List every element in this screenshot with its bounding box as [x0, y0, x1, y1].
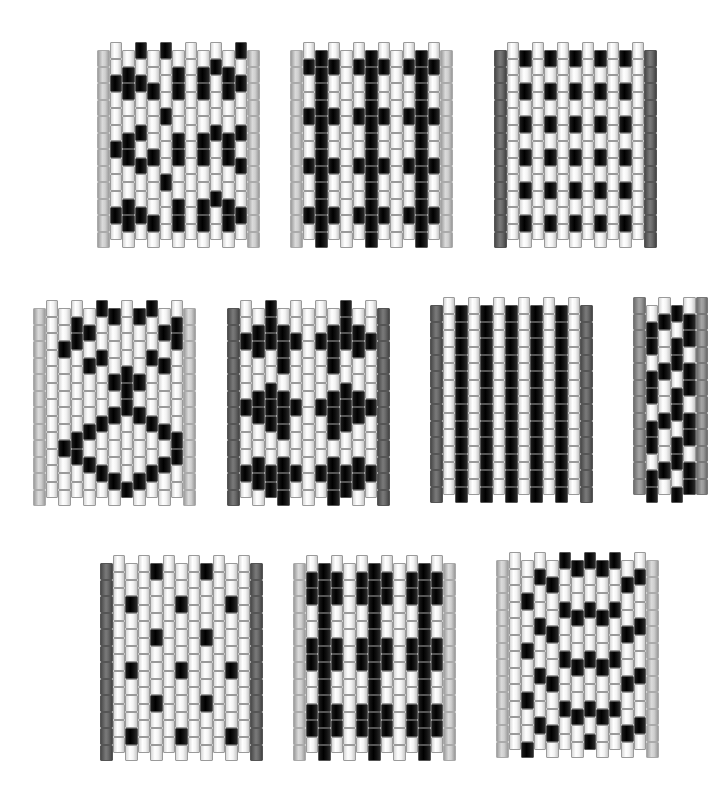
white-bead [532, 42, 545, 59]
white-bead [582, 224, 595, 241]
white-bead [238, 671, 251, 688]
white-bead [303, 92, 316, 109]
edge-bead [696, 314, 709, 331]
black-bead [122, 215, 135, 232]
white-bead [403, 224, 416, 241]
white-bead [188, 720, 201, 737]
black-bead [315, 215, 328, 232]
white-bead [238, 621, 251, 638]
edge-bead [633, 396, 646, 413]
white-bead [543, 479, 556, 496]
white-bead [518, 396, 531, 413]
black-bead [172, 199, 185, 216]
edge-bead [100, 613, 113, 630]
white-bead [213, 720, 226, 737]
black-bead [240, 333, 253, 350]
black-bead [403, 207, 416, 224]
white-bead [568, 330, 581, 347]
black-bead [160, 174, 173, 191]
white-bead [210, 158, 223, 175]
edge-bead [293, 596, 306, 613]
black-bead [521, 643, 534, 660]
black-bead [530, 322, 543, 339]
white-bead [543, 330, 556, 347]
white-bead [507, 108, 520, 125]
white-bead [235, 108, 248, 125]
white-bead [160, 224, 173, 241]
black-bead [277, 341, 290, 358]
white-bead [353, 92, 366, 109]
black-bead [125, 728, 138, 745]
edge-bead [646, 577, 659, 594]
black-bead [252, 457, 265, 474]
black-bead [418, 613, 431, 630]
white-bead [619, 232, 632, 249]
black-bead [277, 358, 290, 375]
white-bead [303, 141, 316, 158]
black-bead [315, 83, 328, 100]
black-bead [505, 355, 518, 372]
black-bead [530, 487, 543, 504]
black-bead [171, 449, 184, 466]
black-bead [353, 207, 366, 224]
edge-bead [227, 341, 240, 358]
edge-bead [250, 613, 263, 630]
white-bead [188, 605, 201, 622]
black-bead [584, 701, 597, 718]
black-bead [222, 215, 235, 232]
white-bead [235, 92, 248, 109]
white-bead [634, 684, 647, 701]
white-bead [393, 613, 406, 630]
edge-bead [580, 388, 593, 405]
white-bead [188, 704, 201, 721]
white-bead [138, 621, 151, 638]
white-bead [507, 75, 520, 92]
white-bead [632, 108, 645, 125]
white-bead [135, 174, 148, 191]
white-bead [468, 297, 481, 314]
white-bead [71, 465, 84, 482]
edge-bead [250, 629, 263, 646]
white-bead [582, 125, 595, 142]
edge-bead [494, 199, 507, 216]
white-bead [200, 679, 213, 696]
white-bead [509, 734, 522, 751]
black-bead [368, 580, 381, 597]
white-bead [543, 446, 556, 463]
white-bead [113, 687, 126, 704]
black-bead [378, 59, 391, 76]
white-bead [544, 67, 557, 84]
edge-bead [247, 83, 260, 100]
white-bead [683, 297, 696, 314]
white-bead [138, 572, 151, 589]
black-bead [71, 333, 84, 350]
white-bead [125, 679, 138, 696]
black-bead [594, 50, 607, 67]
white-bead [519, 133, 532, 150]
white-bead [343, 695, 356, 712]
black-bead [327, 341, 340, 358]
edge-bead [247, 232, 260, 249]
edge-bead [696, 330, 709, 347]
pattern-2-crosses [290, 42, 453, 248]
edge-bead [443, 662, 456, 679]
edge-bead [633, 446, 646, 463]
white-bead [121, 432, 134, 449]
edge-bead [496, 643, 509, 660]
edge-bead [97, 232, 110, 249]
white-bead [133, 490, 146, 507]
white-bead [509, 651, 522, 668]
edge-bead [183, 325, 196, 342]
white-bead [569, 67, 582, 84]
white-bead [302, 407, 315, 424]
black-bead [569, 116, 582, 133]
white-bead [519, 199, 532, 216]
white-bead [569, 100, 582, 117]
white-bead [646, 404, 659, 421]
white-bead [163, 687, 176, 704]
white-bead [378, 75, 391, 92]
white-bead [381, 555, 394, 572]
black-bead [108, 374, 121, 391]
black-bead [671, 487, 684, 504]
white-bead [122, 116, 135, 133]
